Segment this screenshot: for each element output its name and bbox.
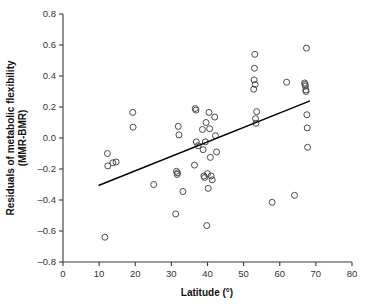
data-point — [176, 132, 182, 138]
y-tick-label: –0.2 — [38, 163, 57, 174]
data-point — [269, 199, 275, 205]
chart-canvas: –0.8–0.6–0.4–0.20.00.20.40.60.8 01020304… — [0, 0, 365, 304]
data-point — [191, 162, 197, 168]
data-point — [304, 112, 310, 118]
y-tick-label: –0.8 — [38, 256, 57, 267]
y-tick-label: –0.4 — [38, 194, 57, 205]
scatter-plot-figure: –0.8–0.6–0.4–0.20.00.20.40.60.8 01020304… — [0, 0, 365, 304]
data-point — [212, 114, 218, 120]
x-tick-label: 60 — [274, 268, 285, 279]
data-point — [205, 185, 211, 191]
y-axis-title-line1: Residuals of metabolic flexibility — [5, 60, 16, 215]
y-tick-label: 0.6 — [43, 39, 56, 50]
data-point — [207, 154, 213, 160]
data-point — [130, 109, 136, 115]
data-point — [305, 144, 311, 150]
data-point — [175, 123, 181, 129]
data-point — [292, 192, 298, 198]
y-axis-title-line2: (MMR-BMR) — [17, 110, 28, 167]
data-point — [151, 182, 157, 188]
data-point — [214, 149, 220, 155]
x-tick-label: 50 — [238, 268, 249, 279]
data-point — [130, 124, 136, 130]
y-tick-label: 0.2 — [43, 101, 56, 112]
data-point — [254, 109, 260, 115]
data-point — [203, 120, 209, 126]
data-point — [206, 109, 212, 115]
x-tick-label: 80 — [347, 268, 358, 279]
x-tick-label: 30 — [166, 268, 177, 279]
y-tick-label: 0.0 — [43, 132, 56, 143]
data-point — [252, 51, 258, 57]
y-tick-label: –0.6 — [38, 225, 57, 236]
data-point — [209, 177, 215, 183]
x-tick-label: 40 — [202, 268, 213, 279]
x-tick-label: 10 — [94, 268, 105, 279]
data-point — [199, 126, 205, 132]
data-point — [180, 188, 186, 194]
data-point — [207, 126, 213, 132]
x-tick-label: 20 — [130, 268, 141, 279]
x-tick-label: 70 — [311, 268, 322, 279]
data-point — [104, 151, 110, 157]
x-axis-title: Latitude (°) — [181, 287, 233, 298]
y-tick-label: 0.8 — [43, 8, 56, 19]
x-axis-ticks: 01020304050607080 — [60, 262, 357, 279]
data-point — [304, 125, 310, 131]
data-point — [102, 234, 108, 240]
data-point — [204, 223, 210, 229]
data-point — [284, 79, 290, 85]
data-point — [251, 65, 257, 71]
x-tick-label: 0 — [60, 268, 65, 279]
data-point — [303, 45, 309, 51]
data-point — [200, 147, 206, 153]
y-tick-label: 0.4 — [43, 70, 56, 81]
data-point — [173, 211, 179, 217]
y-axis-ticks: –0.8–0.6–0.4–0.20.00.20.40.60.8 — [38, 8, 64, 267]
